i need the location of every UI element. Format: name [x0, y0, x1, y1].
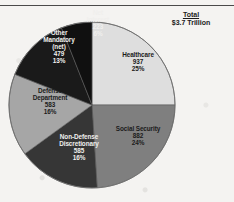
total-legend: Total $3.7 Trillion [154, 11, 228, 28]
pie-chart-svg [0, 0, 234, 202]
budget-pie-chart: Healthcare 937 25% Social Security 882 2… [0, 0, 234, 202]
total-legend-value: $3.7 Trillion [154, 19, 228, 28]
total-legend-title: Total [154, 11, 228, 19]
pie-slice-social-security[interactable] [92, 105, 175, 188]
pie-slice-healthcare[interactable] [92, 22, 175, 105]
page-canvas: Healthcare 937 25% Social Security 882 2… [0, 0, 234, 202]
